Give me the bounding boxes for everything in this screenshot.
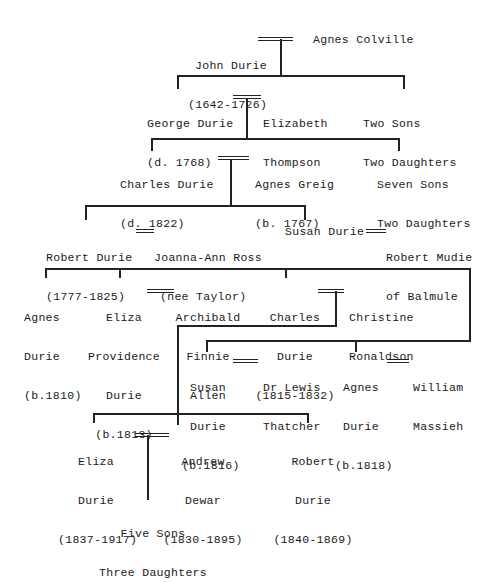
marriage-line	[147, 289, 174, 293]
branch-line	[177, 75, 179, 89]
name-label: Durie	[24, 350, 88, 363]
name-label: Agnes	[335, 381, 387, 394]
descent-line	[230, 159, 232, 206]
branch-line	[469, 268, 471, 342]
branch-line	[403, 75, 405, 89]
others-label: Five Sons	[98, 527, 208, 540]
person-agnes-durie-1810: Agnes Durie (b.1810)	[24, 285, 88, 428]
sibling-line	[85, 205, 306, 207]
branch-line	[398, 138, 400, 151]
name-label: Christine	[349, 311, 414, 324]
sibling-line	[151, 138, 400, 140]
descent-line	[177, 325, 179, 425]
name-label: Massieh	[413, 420, 463, 433]
spouse-agnes-greig: Agnes Greig (b. 1767)	[255, 152, 334, 256]
spouse-agnes-colville: Agnes Colville	[313, 33, 414, 46]
name-label: Joanna-Ann Ross	[154, 251, 262, 264]
marriage-line	[218, 156, 249, 160]
others-label: Two Sons	[363, 117, 457, 130]
sibling-line	[177, 75, 405, 77]
name-label: Elizabeth	[263, 117, 328, 130]
name-label: Robert	[270, 455, 356, 468]
sibling-line	[206, 340, 471, 342]
name-label: Providence	[86, 350, 162, 363]
name-label: George Durie	[147, 117, 233, 130]
sibling-line	[93, 413, 309, 415]
spouse-william-massieh: William Massieh	[413, 355, 463, 459]
name-label: Dr Lewis	[263, 381, 321, 394]
person-robert-durie-1840: Robert Durie (1840-1869)	[270, 429, 356, 572]
dates-label: (1840-1869)	[270, 533, 356, 546]
dates-label: (b.1810)	[24, 389, 88, 402]
branch-line	[93, 413, 95, 423]
name-label: Durie	[86, 389, 162, 402]
branch-line	[151, 138, 153, 151]
descent-line	[280, 39, 282, 76]
name-label: Charles Durie	[120, 178, 214, 191]
name-label: John Durie	[188, 59, 267, 72]
descent-line	[335, 291, 337, 326]
descent-line	[246, 98, 248, 138]
name-label: Andrew	[160, 455, 246, 468]
person-susan-durie: Susan Durie	[285, 225, 364, 238]
branch-line	[285, 268, 287, 278]
others-label: Seven Sons	[377, 178, 471, 191]
others-label: Three Daughters	[98, 566, 208, 579]
name-label: Archibald	[172, 311, 244, 324]
branch-line	[307, 413, 309, 423]
descent-line	[177, 325, 337, 327]
name-label: Durie	[270, 494, 356, 507]
marriage-line	[318, 289, 344, 293]
name-label: Agnes	[24, 311, 88, 324]
name-label: Eliza	[58, 455, 134, 468]
branch-line	[119, 268, 121, 278]
marriage-line	[387, 359, 409, 363]
name-label: William	[413, 381, 463, 394]
name-label: Susan	[182, 381, 234, 394]
branch-line	[85, 205, 87, 220]
name-label: Eliza	[86, 311, 162, 324]
descent-line	[147, 435, 149, 500]
branch-line	[45, 268, 47, 278]
marriage-line	[136, 229, 154, 233]
marriage-line	[258, 37, 293, 41]
branch-line	[304, 205, 306, 220]
name-label: Robert Durie	[46, 251, 132, 264]
marriage-line	[233, 359, 258, 363]
sibling-line	[45, 268, 471, 270]
name-label: Charles	[252, 311, 338, 324]
name-label: Robert Mudie	[386, 251, 472, 264]
name-label: Agnes Greig	[255, 178, 334, 191]
others-gen7: Five Sons Three Daughters	[98, 501, 208, 582]
marriage-line	[366, 229, 386, 233]
